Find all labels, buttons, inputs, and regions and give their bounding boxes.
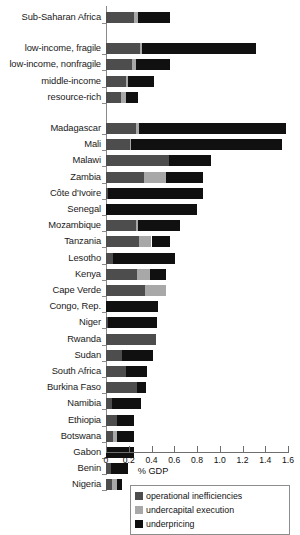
bar-segment-op — [106, 92, 121, 103]
bar-segment-up — [108, 317, 157, 328]
bar-segment-uc — [145, 285, 167, 296]
category-label: Rwanda — [67, 333, 101, 344]
legend-label-underpricing: underpricing — [146, 519, 194, 529]
x-axis-tick — [197, 446, 198, 453]
y-axis-tick — [102, 231, 107, 232]
bar-segment-op — [106, 139, 130, 150]
x-axis-tick — [243, 446, 244, 453]
legend-swatch-icon-undercapital-execution — [135, 506, 143, 514]
chart-legend: operational inefficiencies undercapital … — [130, 485, 290, 535]
bar-segment-op — [106, 334, 156, 345]
bar-row: Botswana — [0, 431, 300, 442]
x-axis-tick-label: 1.0 — [214, 455, 226, 465]
x-axis-tick-label: 1.4 — [259, 455, 271, 465]
bar-segment-op — [106, 253, 113, 264]
bar-segment-op — [106, 172, 144, 183]
x-axis-tick-label: 0 — [104, 455, 109, 465]
x-axis-tick-label: 0.2 — [123, 455, 135, 465]
x-axis-tick — [129, 446, 130, 453]
category-label: Zambia — [70, 171, 101, 182]
bar-row: Niger — [0, 317, 300, 328]
category-label: low-income, nonfragile — [9, 58, 101, 69]
bar-segment-op — [106, 350, 122, 361]
legend-label-operational-inefficiencies: operational inefficiencies — [146, 491, 242, 501]
bar-row: Tanzania — [0, 236, 300, 247]
y-axis-tick — [102, 87, 107, 88]
bar-segment-up — [138, 220, 180, 231]
y-axis-tick — [102, 393, 107, 394]
bar-segment-up — [137, 382, 146, 393]
bar-row: low-income, fragile — [0, 43, 300, 54]
x-axis-tick-label: 0.4 — [146, 455, 158, 465]
bar-segment-op — [106, 59, 132, 70]
bar-segment-up — [112, 398, 142, 409]
bar-row: Zambia — [0, 172, 300, 183]
bar-segment-op — [106, 236, 139, 247]
bar-segment-uc — [137, 269, 151, 280]
bar-segment-op — [106, 43, 140, 54]
bar-segment-up — [106, 301, 158, 312]
category-label: Sudan — [74, 349, 101, 360]
category-label: Madagascar — [50, 122, 101, 133]
bar-row: Sudan — [0, 350, 300, 361]
x-axis-label: % GDP — [0, 466, 300, 476]
y-axis-tick — [102, 490, 107, 491]
category-label: Namibia — [67, 397, 101, 408]
x-axis-tick — [265, 446, 266, 453]
bar-row: Rwanda — [0, 334, 300, 345]
category-label: Congo, Rep. — [49, 300, 101, 311]
category-label: Lesotho — [68, 252, 101, 263]
bar-segment-up — [117, 479, 122, 490]
y-axis-tick — [102, 166, 107, 167]
legend-item-underpricing: underpricing — [135, 517, 285, 531]
x-axis-tick-label: 0.8 — [191, 455, 203, 465]
bar-row: Madagascar — [0, 123, 300, 134]
bar-segment-op — [106, 382, 137, 393]
bar-row: Lesotho — [0, 253, 300, 264]
category-label: middle-income — [41, 75, 101, 86]
bar-segment-op — [106, 12, 134, 23]
bar-segment-op — [106, 269, 137, 280]
y-axis-tick — [102, 150, 107, 151]
bar-segment-up — [169, 155, 211, 166]
category-label: Senegal — [67, 203, 101, 214]
bar-segment-up — [126, 92, 137, 103]
bar-segment-up — [117, 431, 134, 442]
y-axis-tick — [102, 215, 107, 216]
bar-segment-up — [136, 59, 170, 70]
bar-row: Mali — [0, 139, 300, 150]
stacked-bar-chart: Sub-Saharan Africalow-income, fragilelow… — [0, 0, 300, 535]
bar-segment-up — [113, 253, 176, 264]
bar-segment-op — [106, 431, 113, 442]
bar-segment-op — [106, 76, 126, 87]
x-axis-tick-label: 1.2 — [237, 455, 249, 465]
y-axis-tick — [102, 70, 107, 71]
y-axis-tick — [102, 199, 107, 200]
category-label: low-income, fragile — [25, 42, 101, 53]
legend-swatch-icon-underpricing — [135, 520, 143, 528]
y-axis-tick — [102, 377, 107, 378]
y-axis-tick — [102, 312, 107, 313]
legend-item-operational-inefficiencies: operational inefficiencies — [135, 489, 285, 503]
bar-segment-op — [106, 415, 117, 426]
bar-segment-op — [106, 220, 136, 231]
category-label: Burkina Faso — [47, 381, 101, 392]
bar-segment-uc — [139, 236, 152, 247]
y-axis-tick — [102, 247, 107, 248]
bar-segment-up — [126, 366, 146, 377]
bar-segment-op — [106, 366, 126, 377]
category-label: resource-rich — [48, 91, 101, 102]
category-label: Botswana — [61, 430, 101, 441]
bar-row: resource-rich — [0, 92, 300, 103]
category-label: Mali — [84, 138, 101, 149]
y-axis-tick — [102, 183, 107, 184]
category-label: Mozambique — [48, 219, 101, 230]
x-axis-tick — [174, 446, 175, 453]
bar-row: South Africa — [0, 366, 300, 377]
x-axis-tick — [220, 446, 221, 453]
bar-segment-up — [122, 350, 153, 361]
y-axis-tick — [102, 361, 107, 362]
category-label: Niger — [79, 316, 101, 327]
x-axis-tick — [152, 446, 153, 453]
bar-row: Mozambique — [0, 220, 300, 231]
